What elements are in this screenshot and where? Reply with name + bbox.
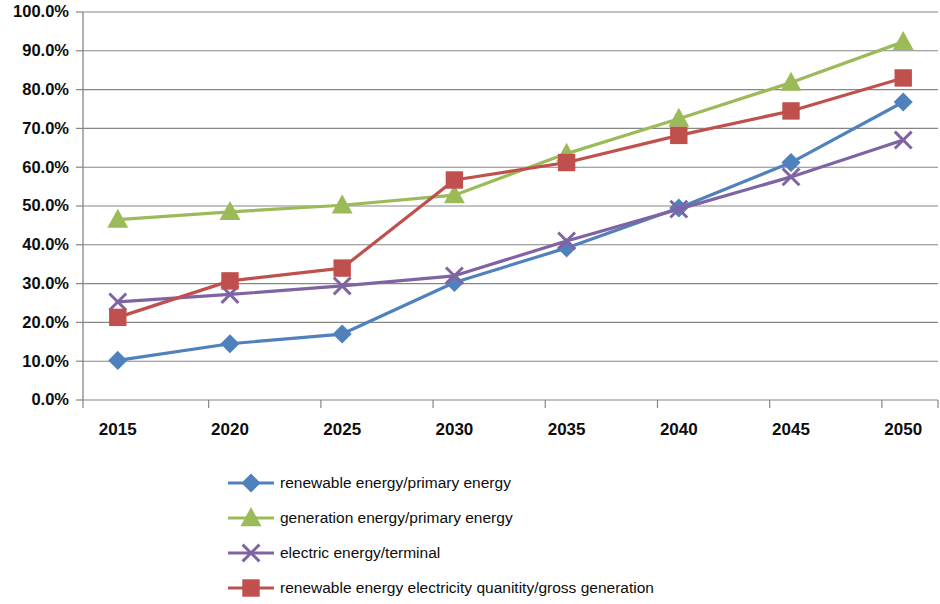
data-point-marker-square (222, 273, 237, 288)
x-axis-tick-label: 2035 (548, 420, 586, 439)
y-axis-tick-label: 90.0% (22, 41, 69, 59)
y-axis-tick-label: 50.0% (22, 196, 69, 214)
data-point-marker-square (559, 155, 574, 170)
legend-item-label: generation energy/primary energy (280, 509, 513, 526)
legend-item-label: renewable energy electricity quanitity/g… (280, 579, 654, 596)
y-axis-tick-label: 30.0% (22, 274, 69, 292)
x-axis-tick-label: 2025 (323, 420, 361, 439)
legend-item[interactable]: renewable energy electricity quanitity/g… (228, 579, 654, 596)
x-axis-tick-label: 2020 (211, 420, 249, 439)
line-chart: 0.0%10.0%20.0%30.0%40.0%50.0%60.0%70.0%8… (0, 0, 940, 604)
y-axis-tick-label: 60.0% (22, 158, 69, 176)
y-axis-tick-label: 10.0% (22, 352, 69, 370)
data-point-marker-square (671, 128, 686, 143)
y-axis-tick-label: 80.0% (22, 80, 69, 98)
legend-item-label: electric energy/terminal (280, 544, 440, 561)
x-axis-tick-label: 2050 (884, 420, 922, 439)
data-point-marker-square (783, 103, 798, 118)
y-axis-tick-label: 100.0% (13, 2, 69, 20)
y-axis-tick-label: 20.0% (22, 313, 69, 331)
legend-item-label: renewable energy/primary energy (280, 474, 511, 491)
x-axis-tick-label: 2015 (99, 420, 137, 439)
y-axis-tick-label: 0.0% (31, 390, 69, 408)
data-point-marker-square (243, 580, 258, 595)
y-axis-tick-label: 40.0% (22, 235, 69, 253)
y-axis-tick-label: 70.0% (22, 119, 69, 137)
x-axis-tick-label: 2045 (772, 420, 810, 439)
chart-canvas: 0.0%10.0%20.0%30.0%40.0%50.0%60.0%70.0%8… (0, 0, 940, 604)
data-point-marker-square (447, 172, 462, 187)
data-point-marker-square (896, 70, 911, 85)
x-axis-tick-label: 2040 (660, 420, 698, 439)
data-point-marker-square (110, 310, 125, 325)
x-axis-tick-label: 2030 (435, 420, 473, 439)
data-point-marker-square (335, 260, 350, 275)
